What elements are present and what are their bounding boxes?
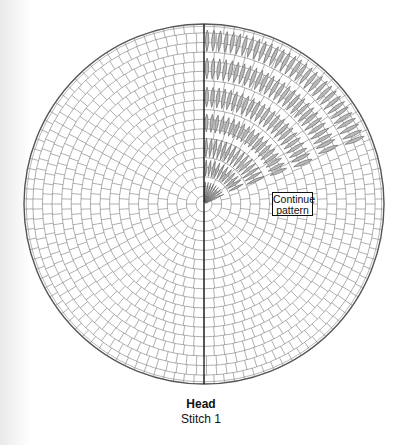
continue-pattern-note: Continue pattern: [272, 192, 313, 216]
crochet-chart-diagram: [0, 0, 402, 445]
note-line-2: pattern: [273, 205, 312, 216]
diagram-subtitle: Stitch 1: [0, 412, 402, 426]
diagram-title: Head: [0, 397, 402, 411]
